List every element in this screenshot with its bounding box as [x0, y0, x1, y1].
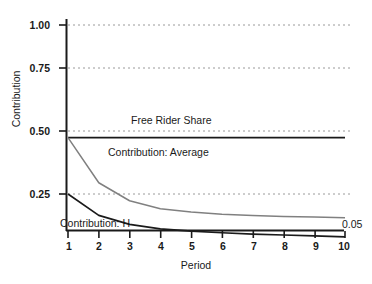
series-line-contribution-average: [68, 138, 345, 218]
gridline-group: [68, 25, 350, 194]
chart-figure: Contribution Period 1.00 0.75 0.50 0.25 …: [0, 0, 372, 284]
plot-canvas: [0, 0, 372, 284]
